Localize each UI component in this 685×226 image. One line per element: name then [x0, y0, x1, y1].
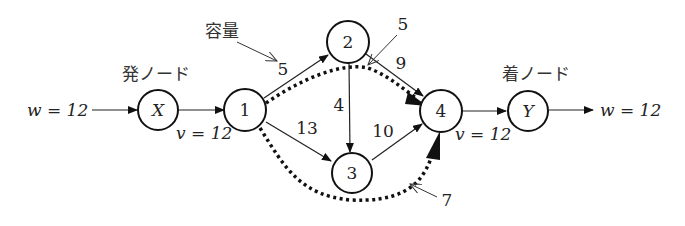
svg-text:2: 2: [343, 32, 354, 52]
edge-2-4: [366, 54, 423, 96]
bottom-path-flow-label: 7: [442, 190, 453, 210]
edge-2-4-capacity: 9: [396, 53, 407, 73]
svg-text:Y: Y: [522, 101, 535, 121]
top-path-flow-label: 5: [398, 14, 409, 34]
svg-text:4: 4: [436, 101, 447, 121]
output-flow: w = 12: [549, 100, 661, 120]
sink-flow-value: v = 12: [455, 124, 511, 144]
source-flow-value: v = 12: [176, 123, 232, 143]
capacity-pointer: [237, 42, 277, 61]
input-flow: w = 12: [27, 100, 137, 120]
sink-node-label: 着ノード: [502, 64, 570, 84]
flow-path-bottom-arrowhead: [426, 131, 440, 160]
svg-text:1: 1: [240, 100, 251, 120]
edge-1-2-capacity: 5: [278, 59, 289, 79]
edge-2-3-capacity: 4: [334, 95, 345, 115]
node-X: X: [138, 90, 178, 130]
flow-network-diagram: w = 12 w = 12 X 1 2 3 4 Y 5 13 4 9: [0, 0, 685, 226]
bottom-path-pointer: [410, 184, 437, 197]
edge-3-4-capacity: 10: [372, 121, 394, 141]
node-Y: Y: [508, 91, 548, 131]
top-path-pointer: [368, 35, 397, 65]
source-node-label: 発ノード: [122, 64, 190, 84]
edge-2-3: [349, 63, 350, 152]
output-flow-label: w = 12: [600, 100, 661, 120]
node-3: 3: [332, 153, 372, 193]
node-2: 2: [327, 21, 369, 63]
edge-1-3-capacity: 13: [296, 118, 318, 138]
svg-text:3: 3: [347, 163, 358, 183]
svg-text:X: X: [150, 100, 165, 120]
capacity-label: 容量: [205, 21, 239, 41]
input-flow-label: w = 12: [27, 100, 88, 120]
